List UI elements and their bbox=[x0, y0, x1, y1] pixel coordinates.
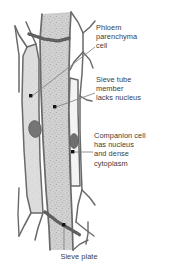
label-phloem-parenchyma-cell: Phloem parenchyma cell bbox=[96, 23, 172, 51]
leader-dot-sieve-plate bbox=[62, 223, 65, 226]
label-sieve-plate: Sieve plate bbox=[39, 252, 119, 261]
companion-cell bbox=[69, 78, 80, 186]
phloem-parenchyma-cell bbox=[15, 22, 43, 240]
leader-dot-parenchyma bbox=[29, 94, 32, 97]
label-sieve-tube-member: Sieve tube member lacks nucleus bbox=[96, 75, 174, 103]
figure-canvas: Phloem parenchyma cell Sieve tube member… bbox=[0, 0, 174, 272]
leader-dot-companion bbox=[71, 150, 74, 153]
leader-dot-sieve-tube bbox=[53, 105, 56, 108]
companion-nucleus bbox=[70, 134, 78, 149]
label-companion-cell: Companion cell has nucleus and dense cyt… bbox=[94, 131, 174, 168]
sieve-tube-member bbox=[40, 12, 73, 250]
